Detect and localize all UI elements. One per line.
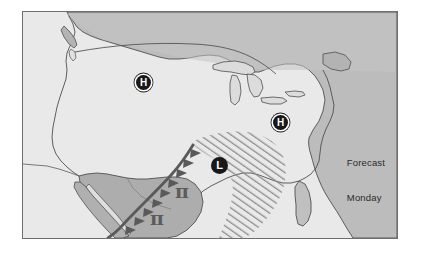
weather-glyph-pi: π <box>175 182 189 201</box>
forecast-caption-line-2: Monday <box>347 192 385 204</box>
high-pressure-badge: H <box>136 75 151 90</box>
low-pressure-badge: L <box>211 157 228 174</box>
weather-glyph-pi: π <box>150 209 164 228</box>
forecast-caption: Forecast Monday <box>347 134 385 226</box>
forecast-caption-line-1: Forecast <box>347 157 385 169</box>
weather-forecast-map: H H L π π Forecast Monday <box>0 0 421 262</box>
high-pressure-badge: H <box>273 115 288 130</box>
lake-erie <box>261 97 287 104</box>
map-frame: H H L π π Forecast Monday <box>22 11 398 239</box>
map-canvas <box>23 12 397 238</box>
